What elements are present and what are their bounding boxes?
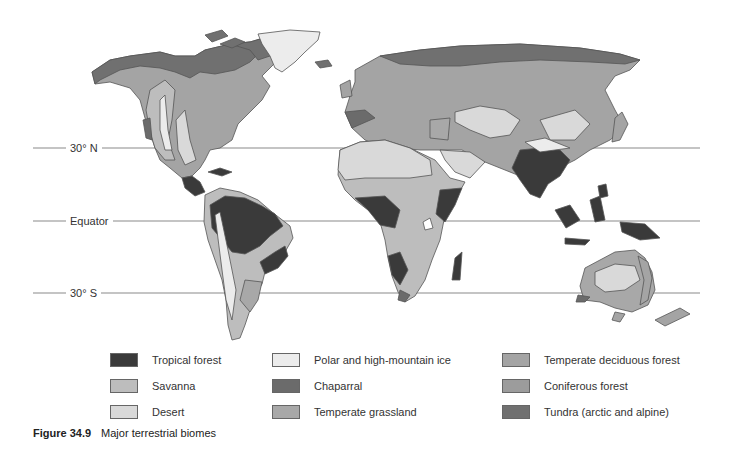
- legend-item-coniferous-forest: Coniferous forest: [502, 378, 628, 394]
- swatch-polar-ice: [272, 353, 300, 367]
- legend-item-tropical-forest: Tropical forest: [110, 352, 221, 368]
- figure-caption: Figure 34.9Major terrestrial biomes: [33, 427, 216, 439]
- legend-label: Chaparral: [314, 380, 362, 392]
- legend-item-chaparral: Chaparral: [272, 378, 362, 394]
- legend-item-desert: Desert: [110, 404, 184, 420]
- legend-label: Tropical forest: [152, 354, 221, 366]
- legend-item-polar-ice: Polar and high-mountain ice: [272, 352, 451, 368]
- legend-label: Temperate grassland: [314, 406, 417, 418]
- legend-item-tundra: Tundra (arctic and alpine): [502, 404, 669, 420]
- figure-title: Major terrestrial biomes: [101, 427, 216, 439]
- latitude-label-30s: 30° S: [66, 287, 101, 299]
- legend-label: Coniferous forest: [544, 380, 628, 392]
- legend-item-savanna: Savanna: [110, 378, 195, 394]
- legend-label: Polar and high-mountain ice: [314, 354, 451, 366]
- swatch-savanna: [110, 379, 138, 393]
- legend-item-temperate-grassland: Temperate grassland: [272, 404, 417, 420]
- swatch-temperate-grassland: [272, 405, 300, 419]
- australia: [576, 250, 690, 326]
- south-america: [204, 188, 293, 340]
- southeast-asia-islands: [555, 184, 660, 245]
- legend-item-temperate-deciduous-forest: Temperate deciduous forest: [502, 352, 680, 368]
- swatch-tundra: [502, 405, 530, 419]
- swatch-desert: [110, 405, 138, 419]
- swatch-tropical-forest: [110, 353, 138, 367]
- legend-label: Temperate deciduous forest: [544, 354, 680, 366]
- iceland: [315, 60, 332, 68]
- swatch-temperate-deciduous-forest: [502, 353, 530, 367]
- latitude-label-30n: 30° N: [66, 142, 102, 154]
- swatch-coniferous-forest: [502, 379, 530, 393]
- swatch-chaparral: [272, 379, 300, 393]
- latitude-label-equator: Equator: [66, 215, 113, 227]
- legend-label: Savanna: [152, 380, 195, 392]
- legend-label: Desert: [152, 406, 184, 418]
- british-isles: [340, 80, 352, 98]
- figure-number: Figure 34.9: [33, 427, 91, 439]
- legend-label: Tundra (arctic and alpine): [544, 406, 669, 418]
